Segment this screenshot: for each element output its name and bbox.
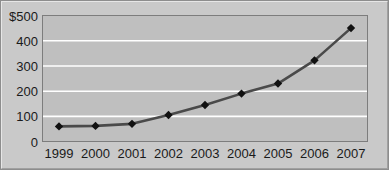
y-tick-label-0: 0 [31, 135, 38, 150]
chart-figure: $500 400 300 200 100 0 19992000200120022… [0, 0, 389, 170]
x-tick-label: 2001 [118, 146, 147, 161]
y-tick-label-100: 100 [16, 109, 38, 124]
x-tick-label: 1999 [45, 146, 74, 161]
x-tick-label: 2004 [227, 146, 256, 161]
y-tick-label-400: 400 [16, 34, 38, 49]
chart-canvas: $500 400 300 200 100 0 19992000200120022… [1, 1, 389, 170]
y-tick-label-300: 300 [16, 59, 38, 74]
y-axis-tick-labels: $500 400 300 200 100 0 [9, 9, 38, 150]
x-tick-label: 2000 [81, 146, 110, 161]
x-tick-label: 2005 [264, 146, 293, 161]
x-axis-tick-labels: 199920002001200220032004200520062007 [45, 146, 366, 161]
x-tick-label: 2003 [191, 146, 220, 161]
y-tick-label-200: 200 [16, 84, 38, 99]
x-tick-label: 2006 [300, 146, 329, 161]
x-tick-label: 2007 [337, 146, 366, 161]
plot-area-background [43, 16, 368, 142]
x-tick-label: 2002 [154, 146, 183, 161]
y-tick-label-500: $500 [9, 9, 38, 24]
